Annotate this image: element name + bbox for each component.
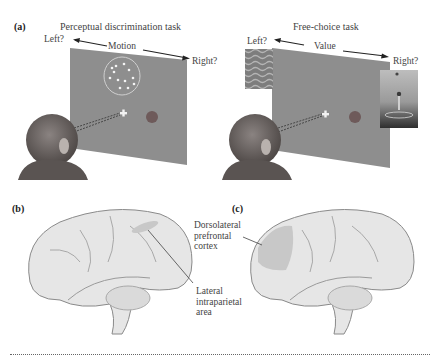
perceptual-screen	[70, 38, 190, 165]
panel-c-label: (c)	[232, 203, 243, 214]
lip-line-3: area	[196, 307, 242, 318]
lip-line-1: Lateral	[196, 286, 242, 297]
panel-a-label: (a)	[14, 21, 26, 32]
lip-line-2: intraparietal	[196, 297, 242, 308]
freechoice-task-title: Free-choice task	[293, 21, 359, 32]
left-choice-image	[245, 49, 273, 89]
perceptual-left-label: Left?	[44, 34, 64, 44]
dlpfc-highlight	[258, 226, 293, 270]
freechoice-axis-label: Value	[314, 41, 336, 51]
brain-b	[29, 210, 193, 335]
dlpfc-line-2: prefrontal	[194, 231, 241, 242]
freechoice-right-label: Right?	[393, 56, 418, 66]
perceptual-axis-label: Motion	[108, 41, 136, 51]
panel-b-label: (b)	[12, 203, 24, 214]
dlpfc-line-1: Dorsolateral	[194, 220, 241, 231]
dotted-divider	[10, 354, 430, 355]
lip-annotation: Lateral intraparietal area	[196, 286, 242, 318]
dlpfc-line-3: cortex	[194, 241, 241, 252]
freechoice-left-label: Left?	[247, 36, 267, 46]
brain-c	[243, 210, 414, 335]
perceptual-task-title: Perceptual discrimination task	[60, 21, 181, 32]
dlpfc-annotation: Dorsolateral prefrontal cortex	[194, 220, 241, 252]
perceptual-right-label: Right?	[192, 56, 217, 66]
target-dot	[146, 111, 158, 123]
